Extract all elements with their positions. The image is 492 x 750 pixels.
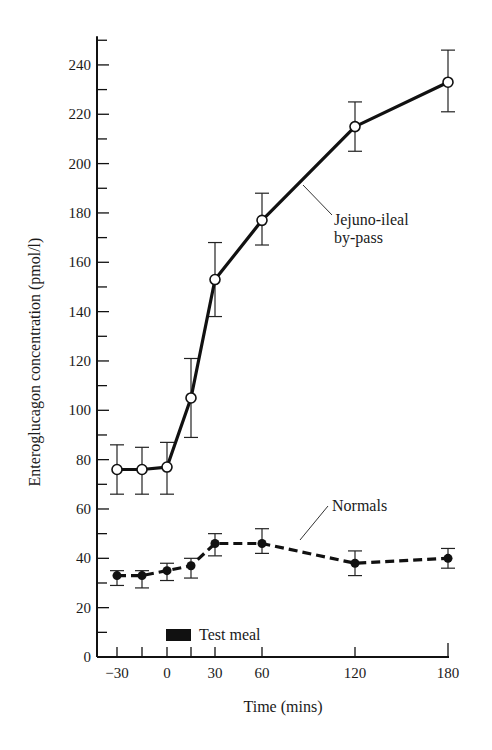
series-lines bbox=[117, 82, 448, 575]
normals-leader-line bbox=[300, 506, 328, 540]
filled-circle-marker bbox=[113, 571, 122, 580]
x-tick-label: −30 bbox=[105, 665, 128, 681]
y-tick-label: 60 bbox=[76, 501, 91, 517]
x-tick-label: 180 bbox=[437, 665, 460, 681]
x-tick-label: 0 bbox=[163, 665, 171, 681]
bypass-label-line2: by-pass bbox=[334, 229, 383, 247]
open-circle-marker bbox=[186, 393, 196, 403]
open-circle-marker bbox=[162, 462, 172, 472]
y-tick-label: 220 bbox=[69, 106, 92, 122]
y-tick-label: 20 bbox=[76, 600, 91, 616]
error-bars bbox=[110, 50, 455, 588]
y-axis: 020406080100120140160180200220240 bbox=[69, 36, 110, 665]
filled-circle-marker bbox=[187, 561, 196, 570]
bypass-series-line bbox=[117, 82, 448, 469]
x-axis-title: Time (mins) bbox=[244, 698, 323, 716]
test-meal-label: Test meal bbox=[199, 626, 261, 643]
x-tick-label: 120 bbox=[344, 665, 367, 681]
x-tick-label: 30 bbox=[208, 665, 223, 681]
open-circle-marker bbox=[443, 77, 453, 87]
x-tick-label: 60 bbox=[255, 665, 270, 681]
bypass-leader-line bbox=[303, 185, 332, 215]
filled-circle-marker bbox=[444, 554, 453, 563]
normals-label: Normals bbox=[332, 497, 387, 514]
open-circle-marker bbox=[210, 275, 220, 285]
filled-circle-marker bbox=[138, 571, 147, 580]
y-tick-label: 120 bbox=[69, 353, 92, 369]
filled-circle-marker bbox=[258, 539, 267, 548]
y-tick-label: 140 bbox=[69, 304, 92, 320]
y-tick-label: 180 bbox=[69, 205, 92, 221]
y-tick-label: 240 bbox=[69, 57, 92, 73]
x-axis: −3003060120180 bbox=[97, 643, 459, 681]
y-axis-title: Enteroglucagon concentration (pmol/l) bbox=[26, 238, 44, 487]
open-circle-marker bbox=[257, 215, 267, 225]
open-circle-marker bbox=[112, 465, 122, 475]
filled-circle-marker bbox=[351, 559, 360, 568]
y-tick-label: 80 bbox=[76, 452, 91, 468]
open-circle-marker bbox=[350, 122, 360, 132]
y-tick-label: 160 bbox=[69, 254, 92, 270]
bypass-label-line1: Jejuno-ileal bbox=[334, 211, 409, 229]
open-circle-marker bbox=[137, 465, 147, 475]
y-tick-label: 40 bbox=[76, 550, 91, 566]
y-tick-label: 100 bbox=[69, 402, 92, 418]
data-markers bbox=[112, 77, 453, 580]
enteroglucagon-chart: 020406080100120140160180200220240 −30030… bbox=[0, 0, 492, 750]
filled-circle-marker bbox=[211, 539, 220, 548]
y-tick-label: 200 bbox=[69, 156, 92, 172]
y-tick-label: 0 bbox=[84, 649, 92, 665]
filled-circle-marker bbox=[163, 566, 172, 575]
test-meal-bar bbox=[166, 629, 191, 641]
